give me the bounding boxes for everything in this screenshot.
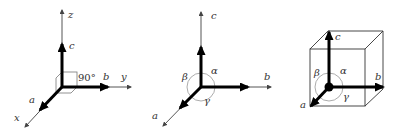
label-b: b (375, 71, 381, 82)
label-beta: β (181, 71, 188, 82)
label-alpha: α (340, 65, 347, 76)
vector-a (40, 87, 62, 110)
label-z: z (67, 9, 74, 20)
panel-cube: c b a β α γ (300, 31, 383, 110)
label-gamma: γ (343, 91, 349, 102)
panel-cartesian: z c 90° b y a x (14, 9, 131, 127)
label-c: c (335, 31, 341, 42)
label-a: a (152, 110, 158, 121)
label-b: b (103, 71, 109, 82)
label-alpha: α (211, 65, 218, 76)
label-x: x (14, 112, 20, 123)
label-b: b (264, 71, 270, 82)
lattice-diagram: z c 90° b y a x c b a β α γ c (0, 0, 399, 138)
vector-a (180, 87, 201, 108)
label-c: c (211, 10, 217, 21)
label-gamma: γ (204, 95, 210, 106)
label-a: a (29, 94, 35, 105)
label-90-degrees: 90° (78, 72, 96, 83)
origin-atom (325, 83, 334, 92)
label-c: c (69, 40, 75, 51)
label-y: y (120, 71, 127, 82)
label-beta: β (313, 67, 320, 78)
panel-general: c b a β α γ (152, 10, 271, 126)
label-a: a (300, 99, 306, 110)
